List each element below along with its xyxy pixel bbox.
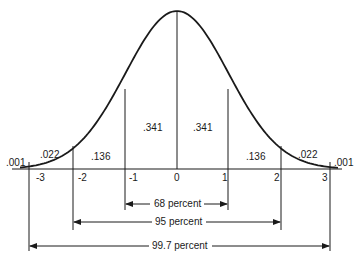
bell-curve — [20, 11, 338, 168]
tick-3: 3 — [322, 173, 328, 183]
label-region-2-3: .022 — [298, 150, 317, 160]
tick-0: 0 — [174, 173, 180, 183]
label-region-m3-m2: .022 — [40, 150, 59, 160]
tick-1: 1 — [222, 173, 228, 183]
tick-2: 2 — [274, 173, 280, 183]
label-region-m1-0: .341 — [143, 123, 162, 133]
label-region-0-1: .341 — [193, 123, 212, 133]
range-label-68: 68 percent — [151, 199, 204, 209]
range-label-95: 95 percent — [152, 217, 205, 227]
label-region-1-2: .136 — [246, 152, 265, 162]
tick-minus1: -1 — [129, 173, 138, 183]
tick-minus2: -2 — [78, 173, 87, 183]
tick-minus3: -3 — [36, 173, 45, 183]
label-region-m2-m1: .136 — [91, 152, 110, 162]
label-tail-right: .001 — [334, 158, 353, 168]
range-label-997: 99.7 percent — [149, 241, 211, 251]
label-tail-left: .001 — [6, 158, 25, 168]
